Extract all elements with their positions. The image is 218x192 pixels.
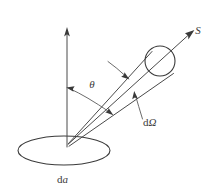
theta-label: θ: [89, 78, 95, 90]
theta-arc: [71, 89, 110, 112]
area-element-ellipse: [18, 136, 110, 165]
solid-angle-leader-line: [136, 96, 143, 120]
flux-direction-arrowhead: [185, 30, 194, 40]
solid-angle-omega-glyph: Ω: [149, 116, 157, 128]
solid-angle-diagram: S θ dΩ da: [0, 0, 218, 192]
figure-container: S θ dΩ da: [0, 0, 218, 192]
cone-edge-leader-line: [108, 62, 126, 77]
area-element-a-glyph: a: [63, 173, 69, 185]
cone-lower-ray: [69, 74, 174, 147]
flux-vector-label: S: [195, 24, 201, 36]
flux-direction-ray: [68, 34, 190, 145]
solid-angle-label: dΩ: [143, 116, 157, 128]
solid-angle-leader-arrowhead: [132, 91, 138, 99]
area-element-label: da: [57, 173, 69, 185]
